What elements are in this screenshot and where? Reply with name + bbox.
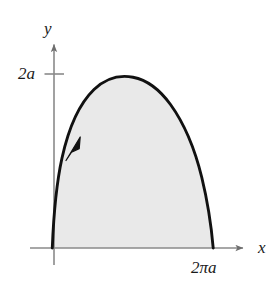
shaded-region	[52, 76, 213, 248]
y-tick-label-2a: 2a	[18, 65, 35, 82]
x-tick-label-2pia: 2πa	[191, 259, 217, 276]
x-axis-label: x	[258, 239, 266, 256]
cycloid-arch-figure	[0, 0, 276, 286]
y-axis-label: y	[44, 20, 52, 37]
figure-root: y x 2a 2πa	[0, 0, 276, 286]
